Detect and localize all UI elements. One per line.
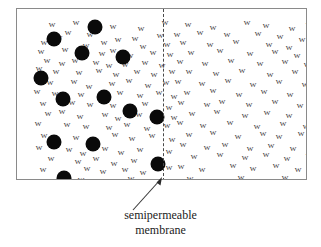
water-molecule: W (199, 167, 206, 174)
solute-particle (86, 137, 101, 152)
water-molecule: W (34, 89, 41, 96)
water-molecule: W (284, 156, 291, 163)
water-molecule: W (238, 175, 245, 181)
water-molecule: W (178, 100, 185, 107)
water-molecule: W (304, 62, 307, 69)
water-molecule: W (84, 166, 91, 173)
water-molecule: W (264, 110, 271, 117)
water-molecule: W (202, 61, 209, 68)
water-molecule: W (290, 146, 297, 153)
water-molecule: W (207, 42, 214, 49)
water-molecule: W (282, 59, 289, 66)
water-molecule: W (244, 20, 251, 27)
water-molecule: W (184, 90, 191, 97)
water-molecule: W (140, 44, 147, 51)
water-molecule: W (286, 45, 293, 52)
water-molecule: W (35, 121, 42, 128)
water-molecule: W (298, 131, 305, 138)
vessel-container: WWWWWWWWWWWWWWWWWWWWWWWWWWWWWWWWWWWWWWWW… (16, 8, 307, 180)
water-molecule: W (75, 159, 82, 166)
water-molecule: W (115, 37, 122, 44)
water-molecule: W (93, 60, 100, 67)
water-molecule: W (142, 60, 149, 67)
water-molecule: W (166, 149, 173, 156)
water-molecule: W (66, 147, 73, 154)
solute-particle (57, 171, 72, 181)
water-molecule: W (49, 178, 56, 181)
water-molecule: W (65, 30, 72, 37)
water-molecule: W (175, 79, 182, 86)
water-molecule: W (299, 37, 306, 44)
water-molecule: W (242, 155, 249, 162)
water-molecule: W (169, 137, 176, 144)
water-molecule: W (225, 78, 232, 85)
water-molecule: W (62, 47, 69, 54)
water-molecule: W (96, 68, 103, 75)
water-molecule: W (217, 48, 224, 55)
water-molecule: W (102, 112, 109, 119)
water-molecule: W (250, 166, 257, 173)
water-molecule: W (164, 42, 171, 49)
water-molecule: W (210, 130, 217, 137)
water-molecule: W (246, 102, 253, 109)
water-molecule: W (53, 69, 60, 76)
water-molecule: W (166, 105, 173, 112)
solute-particle (75, 46, 90, 61)
water-molecule: W (87, 102, 94, 109)
water-molecule: W (167, 52, 174, 59)
water-molecule: W (142, 101, 149, 108)
water-molecule: W (149, 133, 156, 140)
water-molecule: W (191, 154, 198, 161)
solute-particle (47, 32, 62, 47)
water-molecule: W (282, 175, 289, 181)
water-molecule: W (110, 103, 117, 110)
water-molecule: W (230, 163, 237, 170)
water-molecule: W (171, 94, 178, 101)
solute-particle (56, 92, 71, 107)
solute-particle (116, 50, 131, 65)
water-molecule: W (200, 123, 207, 130)
water-molecule: W (78, 92, 85, 99)
water-molecule: W (304, 178, 307, 181)
water-molecule: W (174, 32, 181, 39)
water-molecule: W (247, 146, 254, 153)
membrane-leader-arrow (130, 176, 180, 212)
water-molecule: W (228, 58, 235, 65)
water-molecule: W (38, 49, 45, 56)
water-molecule: W (117, 90, 124, 97)
water-molecule: W (113, 72, 120, 79)
solute-particle (47, 135, 62, 150)
water-molecule: W (36, 145, 43, 152)
water-molecule: W (180, 40, 187, 47)
solute-particle (88, 20, 103, 35)
water-molecule: W (134, 69, 141, 76)
water-molecule: W (77, 114, 84, 121)
water-molecule: W (40, 101, 47, 108)
water-molecule: W (109, 81, 116, 88)
water-molecule: W (83, 124, 90, 131)
water-molecule: W (302, 82, 307, 89)
water-molecule: W (100, 169, 107, 176)
water-molecule: W (210, 88, 217, 95)
water-molecule: W (115, 116, 122, 123)
water-molecule: W (204, 102, 211, 109)
water-molecule: W (277, 34, 284, 41)
water-molecule: W (261, 89, 268, 96)
water-molecule: W (211, 178, 218, 181)
water-molecule: W (214, 109, 221, 116)
water-molecule: W (188, 50, 195, 57)
water-molecule: W (287, 92, 294, 99)
water-molecule: W (286, 113, 293, 120)
water-molecule: W (210, 25, 217, 32)
water-molecule: W (86, 84, 93, 91)
water-molecule: W (233, 39, 240, 46)
water-molecule: W (257, 61, 264, 68)
water-molecule: W (106, 178, 113, 181)
water-molecule: W (156, 90, 163, 97)
water-molecule: W (204, 145, 211, 152)
water-molecule: W (99, 51, 106, 58)
water-molecule: W (110, 24, 117, 31)
solute-particle (97, 90, 112, 105)
water-molecule: W (126, 78, 133, 85)
water-molecule: W (306, 22, 307, 29)
